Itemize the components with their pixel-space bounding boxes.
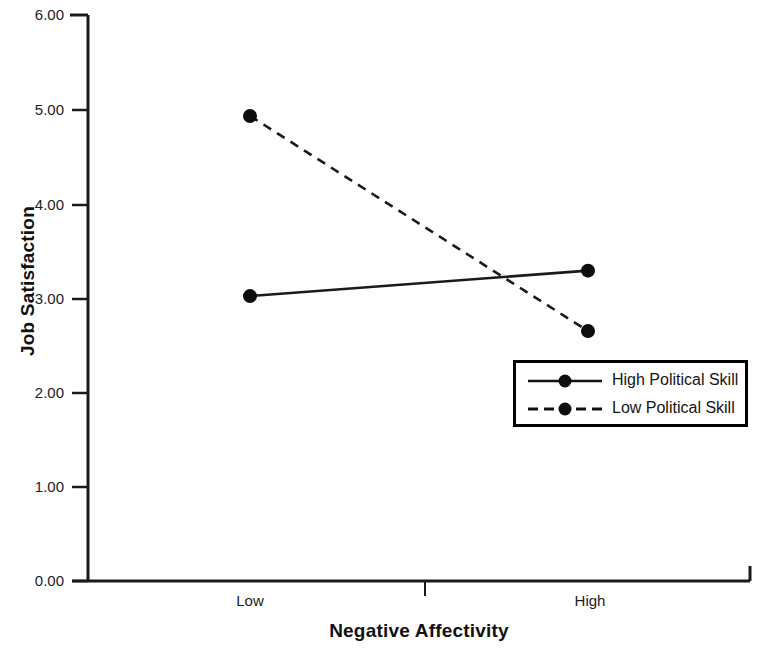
x-axis-title: Negative Affectivity	[88, 620, 750, 642]
legend-label-high-political-skill: High Political Skill	[612, 371, 738, 389]
y-tick-label-0: 0.00	[8, 572, 64, 589]
legend-line-dashed-icon	[526, 396, 604, 422]
x-axis	[72, 566, 750, 596]
x-tick-label-low: Low	[205, 592, 295, 609]
legend-item-high-political-skill: High Political Skill	[516, 368, 745, 394]
y-tick-label-6: 6.00	[8, 6, 64, 23]
chart-figure: 6.00 5.00 4.00 3.00 2.00 1.00 0.00 Low H…	[0, 0, 764, 658]
series-low-political-skill	[243, 109, 595, 338]
legend-line-solid-icon	[526, 368, 604, 394]
legend-label-low-political-skill: Low Political Skill	[612, 399, 735, 417]
y-tick-label-1: 1.00	[8, 478, 64, 495]
y-axis-title: Job Satisfaction	[17, 141, 39, 421]
y-tick-label-5: 5.00	[8, 101, 64, 118]
series-high-political-skill	[243, 264, 595, 303]
legend-item-low-political-skill: Low Political Skill	[516, 396, 745, 422]
chart-legend: High Political Skill Low Political Skill	[513, 360, 748, 427]
line-chart-plot	[0, 0, 764, 658]
y-axis-ticks	[72, 110, 88, 581]
x-tick-label-high: High	[545, 592, 635, 609]
